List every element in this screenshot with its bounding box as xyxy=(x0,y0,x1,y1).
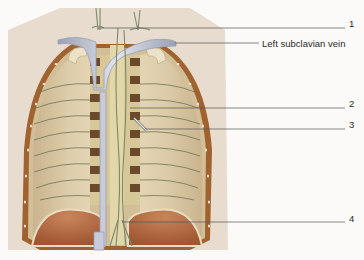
label-1: 1 xyxy=(349,19,354,29)
label-2: 2 xyxy=(349,99,354,109)
label-left-subclavian-vein: Left subclavian vein xyxy=(262,39,345,49)
label-4: 4 xyxy=(349,214,354,224)
label-3: 3 xyxy=(349,120,354,130)
